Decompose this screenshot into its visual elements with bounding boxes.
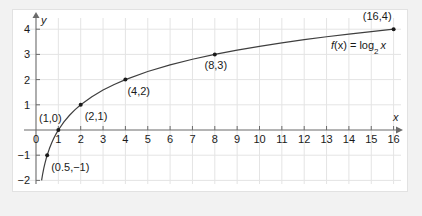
x-axis-label: x: [392, 111, 399, 123]
y-tick-label: 1: [24, 99, 30, 111]
x-tick-label: 15: [365, 133, 377, 145]
x-tick-label: 4: [122, 133, 128, 145]
log-function-graph: 012345678910111213141516 4321−1−2 (0.5,−…: [13, 10, 407, 191]
y-tick-label: −1: [17, 149, 30, 161]
point-label: (0.5,−1): [51, 161, 89, 173]
plot-frame: 012345678910111213141516 4321−1−2 (0.5,−…: [12, 9, 408, 192]
x-tick-label: 16: [387, 133, 399, 145]
y-axis-tick-marks: [36, 29, 40, 180]
point-label: (16,4): [363, 10, 392, 22]
x-tick-label: 5: [145, 133, 151, 145]
y-tick-label: −2: [17, 174, 30, 186]
point-labels-group: (0.5,−1)(1,0)(2,1)(4,2)(8,3)(16,4): [39, 10, 392, 173]
y-axis-tick-labels: 4321−1−2: [17, 23, 30, 186]
point-label: (8,3): [204, 59, 227, 71]
x-tick-label: 8: [212, 133, 218, 145]
x-tick-label: 10: [253, 133, 265, 145]
x-tick-label: 14: [343, 133, 355, 145]
x-tick-label: 9: [234, 133, 240, 145]
y-axis-label: y: [40, 14, 48, 26]
data-point: [213, 52, 217, 56]
x-tick-label: 3: [100, 133, 106, 145]
point-label: (2,1): [85, 110, 108, 122]
x-axis-tick-labels: 012345678910111213141516: [33, 133, 400, 145]
function-equation-label: f(x) = log2x: [331, 39, 387, 56]
data-point: [79, 103, 83, 107]
data-point: [392, 27, 396, 31]
y-tick-label: 4: [24, 23, 30, 35]
x-tick-label: 2: [78, 133, 84, 145]
data-point: [123, 78, 127, 82]
point-label: (1,0): [39, 112, 62, 124]
y-tick-label: 3: [24, 48, 30, 60]
x-axis-tick-marks: [58, 126, 393, 130]
data-point: [56, 128, 60, 132]
y-tick-label: 2: [24, 74, 30, 86]
x-tick-label: 13: [320, 133, 332, 145]
data-point: [45, 153, 49, 157]
point-label: (4,2): [127, 85, 150, 97]
figure-container: 012345678910111213141516 4321−1−2 (0.5,−…: [0, 0, 422, 216]
y-axis-arrowhead: [33, 12, 40, 18]
x-tick-label: 6: [167, 133, 173, 145]
x-tick-label: 11: [276, 133, 287, 145]
x-tick-label: 7: [189, 133, 195, 145]
x-tick-label: 12: [298, 133, 310, 145]
x-tick-label: 0: [33, 133, 39, 145]
